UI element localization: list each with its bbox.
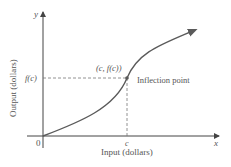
y-tick-label-fc: f(c) <box>25 73 37 83</box>
inflection-annotation: Inflection point <box>137 75 190 85</box>
x-axis-label: Input (dollars) <box>101 147 153 157</box>
inflection-point-marker <box>125 76 129 80</box>
origin-label: 0 <box>36 138 41 148</box>
y-axis-label: Output (dollars) <box>8 59 18 117</box>
point-label: (c, f(c)) <box>96 63 122 73</box>
y-axis-letter: y <box>33 9 38 19</box>
x-axis-letter: x <box>213 138 218 148</box>
inflection-diagram: y x 0 c f(c) (c, f(c)) Inflection point … <box>0 0 231 167</box>
